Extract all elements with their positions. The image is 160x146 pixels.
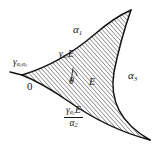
fraction-num-E: E [75,105,81,115]
gamma-alpha1E-tail: E [68,49,74,59]
label-region-E: E [89,77,95,87]
label-alpha1-subscript: 1 [79,29,82,36]
label-alpha1: α1 [73,24,82,35]
label-alpha3-subscript: 3 [134,75,137,82]
label-origin: 0 [27,81,33,92]
fraction-den-subscript: 2 [74,122,77,128]
label-gamma-alpha1-E: γα1E [59,50,74,60]
fraction-numerator: γα2E [64,106,83,116]
label-gamma-alpha1-alpha2: γα1α2 [13,58,27,68]
figure-container: α1 α3 γα1α2 γα1E 0 θ E γα2E α2 [0,0,160,146]
label-theta: θ [69,76,74,86]
left-tangent-tail [10,72,22,75]
label-gamma-alpha2-E-over-alpha2: γα2E α2 [64,106,83,128]
gamma-sub-alpha-b-index: 2 [25,63,27,68]
gamma-subscript-group: α1α2 [17,61,27,67]
fraction-denominator: α2 [64,119,83,129]
fraction: γα2E α2 [64,106,83,128]
label-alpha3: α3 [128,70,137,81]
